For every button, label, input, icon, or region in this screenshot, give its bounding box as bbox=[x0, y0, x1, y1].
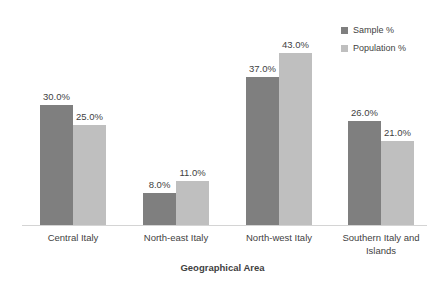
legend-swatch-icon bbox=[341, 45, 348, 52]
bar-value-label: 21.0% bbox=[384, 127, 411, 138]
bar-value-label: 8.0% bbox=[149, 179, 171, 190]
bar-population[interactable]: 25.0% bbox=[73, 125, 106, 225]
x-tick-label-2: North-west Italy bbox=[227, 231, 331, 244]
legend-item-sample[interactable]: Sample % bbox=[341, 26, 406, 35]
bar-value-label: 26.0% bbox=[351, 107, 378, 118]
bar-population[interactable]: 21.0% bbox=[381, 141, 414, 225]
bar-population[interactable]: 11.0% bbox=[176, 181, 209, 225]
bar-value-label: 25.0% bbox=[76, 111, 103, 122]
x-tick-label-0: Central Italy bbox=[21, 231, 125, 244]
x-axis-line bbox=[22, 225, 427, 226]
bar-value-label: 43.0% bbox=[282, 39, 309, 50]
bar-value-label: 30.0% bbox=[43, 91, 70, 102]
x-tick-label-3: Southern Italy and Islands bbox=[329, 231, 433, 257]
x-tick-label-1: North-east Italy bbox=[124, 231, 228, 244]
bar-sample[interactable]: 8.0% bbox=[143, 193, 176, 225]
legend-label: Population % bbox=[353, 44, 406, 53]
bar-value-label: 37.0% bbox=[249, 63, 276, 74]
bar-chart: 30.0% 25.0% 8.0% 11.0% 37.0% 43.0% bbox=[0, 0, 445, 283]
x-axis-title: Geographical Area bbox=[0, 262, 445, 273]
bar-value-label: 11.0% bbox=[179, 167, 205, 178]
bar-sample[interactable]: 37.0% bbox=[246, 77, 279, 225]
bar-sample[interactable]: 26.0% bbox=[348, 121, 381, 225]
legend-item-population[interactable]: Population % bbox=[341, 44, 406, 53]
bar-sample[interactable]: 30.0% bbox=[40, 105, 73, 225]
bar-population[interactable]: 43.0% bbox=[279, 53, 312, 225]
legend: Sample % Population % bbox=[341, 26, 406, 53]
legend-label: Sample % bbox=[353, 26, 394, 35]
legend-swatch-icon bbox=[341, 27, 348, 34]
